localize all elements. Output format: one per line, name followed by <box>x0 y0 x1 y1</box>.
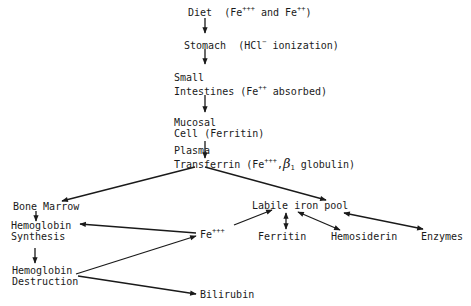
node-mucosal-cell: Mucosal Cell (Ferritin) <box>174 117 264 139</box>
node-plasma-transferrin: Plasma Transferrin (Fe+++,β1 globulin) <box>174 145 355 174</box>
stomach-note: (HCl <box>238 40 262 51</box>
hemosiderin-label: Hemosiderin <box>331 231 397 242</box>
arrow-destruction-bilirubin <box>78 276 196 294</box>
arrow-fe-synthesis <box>80 224 196 233</box>
destruction-line1: Hemoglobin <box>12 265 78 276</box>
transferrin-sup: +++ <box>264 157 277 165</box>
transferrin-line2: Transferrin <box>174 159 240 170</box>
fe3-label: Fe <box>200 229 212 240</box>
bilirubin-label: Bilirubin <box>200 289 254 300</box>
arrow-fe-labile <box>234 210 272 225</box>
node-diet: Diet (Fe+++ and Fe++) <box>188 4 311 18</box>
beta-symbol: β <box>283 156 291 171</box>
intestines-line1: Small <box>174 72 327 83</box>
node-hemoglobin-destruction: Hemoglobin Destruction <box>12 265 78 287</box>
node-small-intestines: Small Intestines (Fe++ absorbed) <box>174 72 327 97</box>
transferrin-line1: Plasma <box>174 145 355 156</box>
labile-label: Labile iron pool <box>252 200 348 211</box>
mucosal-line2: Cell <box>174 128 198 139</box>
diet-note: (Fe <box>224 7 242 18</box>
intestines-line2: Intestines <box>174 86 234 97</box>
node-hemoglobin-synthesis: Hemoglobin Synthesis <box>11 220 71 242</box>
arrow-labile-hemosiderin <box>298 212 340 230</box>
mucosal-note: (Ferritin) <box>204 128 264 139</box>
diet-suffix: ) <box>305 7 311 18</box>
transferrin-note: (Fe <box>246 159 264 170</box>
node-ferritin: Ferritin <box>258 231 306 242</box>
node-bone-marrow: Bone Marrow <box>13 201 79 212</box>
intestines-suffix: absorbed) <box>267 86 327 97</box>
synthesis-line1: Hemoglobin <box>11 220 71 231</box>
node-labile-iron-pool: Labile iron pool <box>252 200 348 211</box>
stomach-suffix: ionization) <box>267 40 339 51</box>
bone-marrow-label: Bone Marrow <box>13 201 79 212</box>
arrow-destruction-fe <box>76 236 196 274</box>
node-hemosiderin: Hemosiderin <box>331 231 397 242</box>
synthesis-line2: Synthesis <box>11 231 71 242</box>
fe3-sup: +++ <box>212 227 225 235</box>
intestines-sup: ++ <box>258 84 266 92</box>
intestines-note: (Fe <box>240 86 258 97</box>
arrow-labile-enzymes <box>344 213 423 229</box>
node-fe3: Fe+++ <box>200 226 225 240</box>
transferrin-suffix: globulin) <box>295 159 355 170</box>
node-enzymes: Enzymes <box>421 231 463 242</box>
diet-sup1: +++ <box>242 5 255 13</box>
destruction-line2: Destruction <box>12 276 78 287</box>
diet-mid: and Fe <box>255 7 297 18</box>
diet-label: Diet <box>188 7 212 18</box>
mucosal-line1: Mucosal <box>174 117 264 128</box>
node-stomach: Stomach (HCl− ionization) <box>184 37 339 51</box>
node-bilirubin: Bilirubin <box>200 289 254 300</box>
stomach-label: Stomach <box>184 40 226 51</box>
enzymes-label: Enzymes <box>421 231 463 242</box>
ferritin-label: Ferritin <box>258 231 306 242</box>
